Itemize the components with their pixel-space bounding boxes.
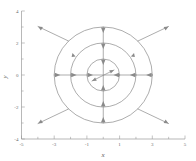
y-tick-label-2: 0 xyxy=(16,73,19,78)
x-tick-label-3: 1 xyxy=(118,142,121,147)
separatrix-upper-right xyxy=(138,27,169,42)
phase-portrait-data xyxy=(38,27,169,124)
separatrix-lower-left xyxy=(38,109,69,124)
x-tick-label-4: 3 xyxy=(151,142,154,147)
x-tick-label-5: 5 xyxy=(184,142,187,147)
phase-portrait-canvas: -5 -3 -1 1 3 5 4 2 0 -2 -4 x y xyxy=(0,0,196,161)
separatrix-upper-left xyxy=(38,27,69,42)
y-tick-label-4: -4 xyxy=(14,137,19,142)
y-tick-label-0: 4 xyxy=(16,9,19,14)
x-axis-ticks xyxy=(22,136,186,140)
x-tick-label-1: -3 xyxy=(52,142,57,147)
y-tick-label-1: 2 xyxy=(16,41,19,46)
separatrix-lower-right xyxy=(138,109,169,124)
phase-portrait-figure: -5 -3 -1 1 3 5 4 2 0 -2 -4 x y xyxy=(0,0,196,161)
y-axis-ticks xyxy=(22,11,25,139)
x-axis-title: x xyxy=(100,151,105,159)
y-tick-label-3: -2 xyxy=(14,105,19,110)
x-tick-label-2: -1 xyxy=(85,142,90,147)
y-axis-title: y xyxy=(1,75,9,80)
x-tick-label-0: -5 xyxy=(19,142,24,147)
